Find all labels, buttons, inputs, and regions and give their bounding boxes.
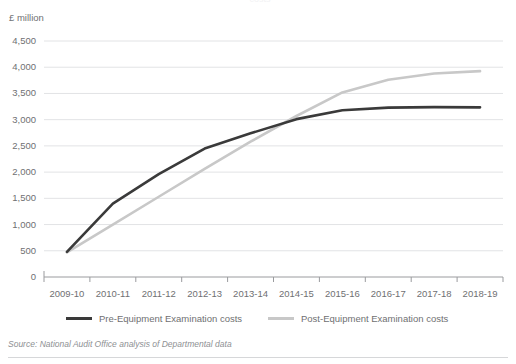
legend-item-label: Pre-Equipment Examination costs	[99, 313, 242, 324]
chart-svg	[0, 34, 516, 284]
series-line-post-equipment-examination-costs	[67, 71, 480, 252]
bottom-divider	[8, 357, 508, 358]
chart-legend: Pre-Equipment Examination costsPost-Equi…	[0, 309, 516, 329]
y-axis-tick-label: 2,000	[0, 166, 36, 177]
source-note: Source: National Audit Office analysis o…	[8, 339, 232, 349]
y-axis-tick-label: 2,500	[0, 140, 36, 151]
x-axis-ticks	[44, 277, 503, 282]
y-axis-title: £ million	[9, 12, 44, 23]
y-axis-tick-label: 1,500	[0, 192, 36, 203]
y-axis-tick-label: 1,000	[0, 219, 36, 230]
y-axis-tick-label: 4,000	[0, 61, 36, 72]
legend-item[interactable]: Pre-Equipment Examination costs	[66, 309, 242, 327]
x-axis-tick-label: 2018-19	[452, 288, 508, 299]
plot-area: 05001,0001,5002,0002,5003,0003,5004,0004…	[0, 34, 516, 284]
y-axis-tick-label: 4,500	[0, 35, 36, 46]
legend-swatch-pre	[66, 317, 92, 320]
y-axis-tick-label: 3,500	[0, 87, 36, 98]
y-axis-tick-label: 0	[0, 271, 36, 282]
chart-figure: costs £ million 05001,0001,5002,0002,500…	[0, 0, 516, 364]
legend-item-label: Post-Equipment Examination costs	[301, 313, 448, 324]
legend-item[interactable]: Post-Equipment Examination costs	[268, 309, 448, 327]
y-axis-tick-label: 500	[0, 245, 36, 256]
y-axis-tick-label: 3,000	[0, 114, 36, 125]
clipped-title-remnant: costs	[190, 0, 330, 4]
legend-swatch-post	[268, 317, 294, 320]
